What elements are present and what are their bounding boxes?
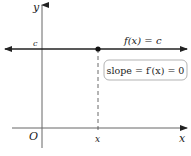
y-axis-label: y [32,1,40,14]
point-marker [95,46,100,51]
x-tick-label: x [95,134,100,144]
slope-label: slope = f′(x) = 0 [107,65,185,76]
y-tick-label-c: c [33,39,38,48]
x-axis-label: x [179,132,186,145]
origin-label: O [29,130,38,143]
function-label: f(x) = c [123,35,162,46]
constant-function-diagram: y c O x x f(x) = c slope = f′(x) = 0 [0,0,191,156]
